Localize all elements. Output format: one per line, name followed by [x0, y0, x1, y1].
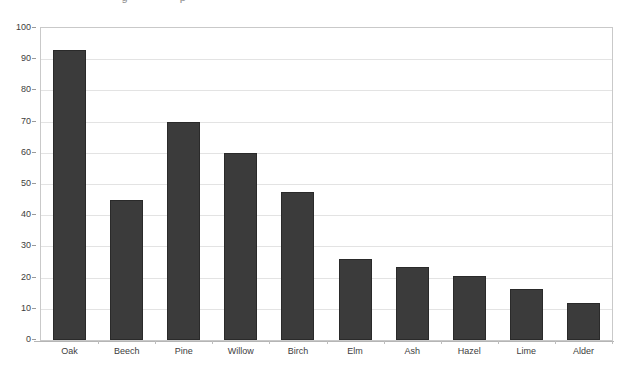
x-tick-label-pine: Pine — [155, 347, 212, 356]
y-tick-mark — [32, 152, 36, 153]
y-tick-label: 70 — [21, 116, 31, 125]
x-tick-label-hazel: Hazel — [441, 347, 498, 356]
y-tick-mark — [32, 89, 36, 90]
x-tick-label-willow: Willow — [212, 347, 269, 356]
y-tick-label: 50 — [21, 179, 31, 188]
x-tick-label-birch: Birch — [269, 347, 326, 356]
bar-beech[interactable] — [110, 200, 143, 340]
y-tick-label: 30 — [21, 241, 31, 250]
x-tick-mark — [98, 341, 99, 344]
bars-layer — [41, 28, 612, 340]
bar-ash[interactable] — [396, 267, 429, 340]
x-tick-mark — [384, 341, 385, 344]
x-tick-mark — [498, 341, 499, 344]
x-tick-mark — [155, 341, 156, 344]
bar-chart: 0102030405060708090100 OakBeechPineWillo… — [0, 0, 635, 386]
x-tick-label-alder: Alder — [555, 347, 612, 356]
bar-elm[interactable] — [339, 259, 372, 340]
y-tick-mark — [32, 121, 36, 122]
bar-willow[interactable] — [224, 153, 257, 340]
y-tick-mark — [32, 308, 36, 309]
y-axis: 0102030405060708090100 — [0, 27, 36, 341]
x-tick-mark — [612, 341, 613, 344]
x-tick-mark — [212, 341, 213, 344]
x-axis: OakBeechPineWillowBirchElmAshHazelLimeAl… — [41, 347, 612, 367]
bar-hazel[interactable] — [453, 276, 486, 340]
bar-alder[interactable] — [567, 303, 600, 340]
x-tick-label-elm: Elm — [327, 347, 384, 356]
x-axis-baseline — [34, 341, 614, 342]
y-tick-mark — [32, 339, 36, 340]
x-tick-mark — [327, 341, 328, 344]
y-tick-label: 20 — [21, 272, 31, 281]
bar-oak[interactable] — [53, 50, 86, 340]
y-tick-mark — [32, 27, 36, 28]
x-tick-mark — [441, 341, 442, 344]
y-tick-label: 90 — [21, 54, 31, 63]
y-tick-label: 40 — [21, 210, 31, 219]
y-tick-label: 10 — [21, 303, 31, 312]
y-tick-label: 80 — [21, 85, 31, 94]
x-tick-label-beech: Beech — [98, 347, 155, 356]
x-tick-mark — [269, 341, 270, 344]
y-tick-mark — [32, 277, 36, 278]
bar-pine[interactable] — [167, 122, 200, 340]
x-tick-label-lime: Lime — [498, 347, 555, 356]
y-tick-label: 0 — [26, 335, 31, 344]
x-tick-mark — [555, 341, 556, 344]
x-tick-label-oak: Oak — [41, 347, 98, 356]
y-tick-label: 100 — [16, 23, 31, 32]
y-tick-label: 60 — [21, 147, 31, 156]
y-tick-mark — [32, 183, 36, 184]
y-tick-mark — [32, 214, 36, 215]
bar-birch[interactable] — [281, 192, 314, 340]
y-tick-mark — [32, 245, 36, 246]
bar-lime[interactable] — [510, 289, 543, 340]
y-tick-mark — [32, 58, 36, 59]
x-tick-label-ash: Ash — [384, 347, 441, 356]
